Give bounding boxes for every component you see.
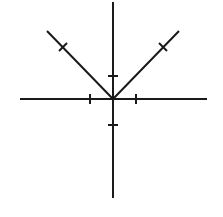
abs-value-graph bbox=[0, 0, 223, 217]
